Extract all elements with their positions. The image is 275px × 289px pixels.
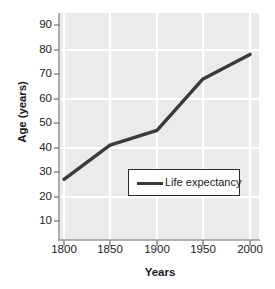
x-axis-title: Years bbox=[60, 266, 260, 278]
life-expectancy-line-chart: Age (years) 90 80 70 60 50 40 30 20 10 bbox=[0, 0, 275, 289]
chart-legend: Life expectancy bbox=[128, 169, 240, 196]
x-tick-label: 2000 bbox=[228, 243, 272, 255]
x-tick-label: 1800 bbox=[42, 243, 86, 255]
x-tick-label: 1850 bbox=[88, 243, 132, 255]
legend-label-life-expectancy: Life expectancy bbox=[165, 176, 241, 188]
legend-line-swatch bbox=[137, 182, 163, 185]
vertical-gridlines bbox=[64, 13, 250, 240]
x-tick-label: 1900 bbox=[135, 243, 179, 255]
x-axis-tick-labels: 1800 1850 1900 1950 2000 bbox=[0, 243, 275, 261]
x-tick-label: 1950 bbox=[181, 243, 225, 255]
